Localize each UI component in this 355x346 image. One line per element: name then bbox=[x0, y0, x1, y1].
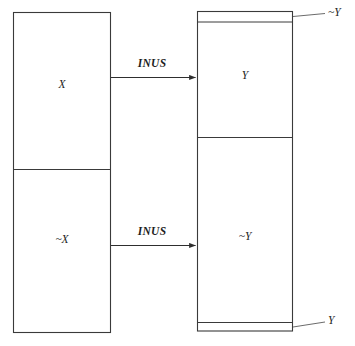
antecedent-box bbox=[14, 13, 111, 333]
callout-bottom-leader-line bbox=[293, 322, 325, 327]
label-not-x: ~X bbox=[55, 233, 69, 245]
label-x: X bbox=[57, 78, 66, 90]
callout-label-not-y: ~Y bbox=[328, 6, 342, 18]
consequent-box-outline bbox=[198, 12, 293, 332]
label-not-y: ~Y bbox=[239, 230, 253, 242]
consequent-box bbox=[198, 12, 293, 332]
callout-top-leader-line bbox=[293, 14, 325, 17]
edge-label-inus-bottom: INUS bbox=[137, 225, 167, 237]
antecedent-box-outline bbox=[14, 13, 111, 333]
callout-label-y: Y bbox=[328, 314, 336, 326]
diagram-canvas: X ~X Y ~Y INUS INUS ~Y Y bbox=[0, 0, 355, 346]
edge-label-inus-top: INUS bbox=[137, 57, 167, 69]
inus-causal-diagram: X ~X Y ~Y INUS INUS ~Y Y bbox=[0, 0, 355, 346]
